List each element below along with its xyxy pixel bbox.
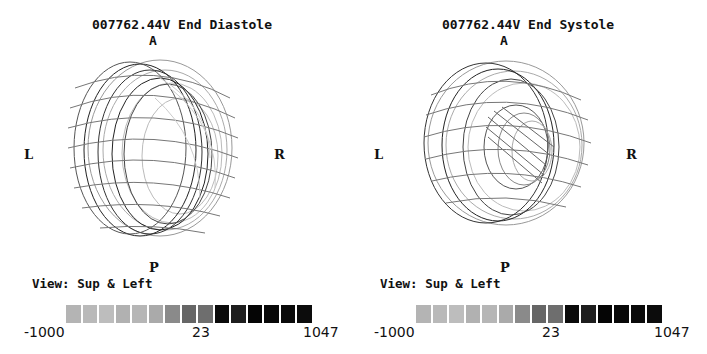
right-label: R <box>626 147 637 162</box>
scale-swatch <box>466 305 481 323</box>
scale-swatch <box>66 305 81 323</box>
posterior-label: P <box>500 260 510 275</box>
scale-swatch <box>231 305 246 323</box>
panel-title: 007762.44V End Diastole <box>92 17 272 32</box>
scale-swatch <box>297 305 312 323</box>
right-label: R <box>274 147 285 162</box>
scale-swatch <box>416 305 431 323</box>
intensity-scale-bar <box>66 305 312 323</box>
scale-swatch <box>116 305 131 323</box>
scale-swatch <box>264 305 279 323</box>
scale-swatch <box>182 305 197 323</box>
scale-min-label: -1000 <box>374 324 415 340</box>
anterior-label: A <box>500 33 508 48</box>
scale-swatch <box>149 305 164 323</box>
scale-mid-label: 23 <box>192 324 210 340</box>
end-diastole-panel: 007762.44V End Diastole A L R P <box>0 0 354 354</box>
scale-swatch <box>248 305 263 323</box>
left-label: L <box>374 147 383 162</box>
scale-swatch <box>165 305 180 323</box>
scale-swatch <box>647 305 662 323</box>
scale-swatch <box>598 305 613 323</box>
view-label: View: Sup & Left <box>380 276 500 291</box>
scale-min-label: -1000 <box>24 324 65 340</box>
scale-swatch <box>99 305 114 323</box>
scale-swatch <box>482 305 497 323</box>
scale-swatch <box>281 305 296 323</box>
scale-max-label: 1047 <box>303 324 339 340</box>
panel-title: 007762.44V End Systole <box>442 17 614 32</box>
scale-swatch <box>132 305 147 323</box>
scale-mid-label: 23 <box>542 324 560 340</box>
scale-swatch <box>548 305 563 323</box>
scale-max-label: 1047 <box>654 324 690 340</box>
wireframe-heart-systole <box>416 55 596 235</box>
view-label: View: Sup & Left <box>32 276 152 291</box>
anterior-label: A <box>149 33 157 48</box>
scale-swatch <box>515 305 530 323</box>
scale-swatch <box>614 305 629 323</box>
end-systole-panel: 007762.44V End Systole A L R P <box>354 0 707 354</box>
left-label: L <box>24 147 33 162</box>
scale-swatch <box>499 305 514 323</box>
scale-swatch <box>449 305 464 323</box>
intensity-scale-bar <box>416 305 662 323</box>
scale-swatch <box>631 305 646 323</box>
posterior-label: P <box>149 260 159 275</box>
scale-swatch <box>581 305 596 323</box>
scale-swatch <box>215 305 230 323</box>
wireframe-heart-diastole <box>60 48 250 253</box>
scale-swatch <box>565 305 580 323</box>
scale-swatch <box>532 305 547 323</box>
scale-swatch <box>83 305 98 323</box>
scale-swatch <box>433 305 448 323</box>
scale-swatch <box>198 305 213 323</box>
